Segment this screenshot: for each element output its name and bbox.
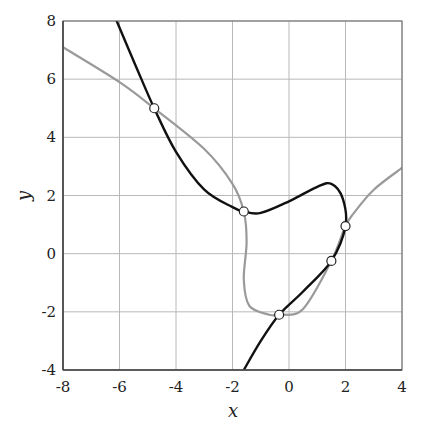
chart: -8-6-4-2024 -4-202468 x y xyxy=(0,0,428,441)
x-tick-label: -6 xyxy=(112,378,127,396)
x-tick-labels: -8-6-4-2024 xyxy=(56,378,407,396)
y-tick-label: 4 xyxy=(46,128,56,146)
x-tick-label: 0 xyxy=(284,378,294,396)
x-tick-label: 2 xyxy=(341,378,351,396)
x-tick-label: -8 xyxy=(56,378,71,396)
intersection-marker xyxy=(150,104,159,113)
y-axis-label: y xyxy=(13,190,34,202)
y-tick-label: 2 xyxy=(46,187,56,205)
y-tick-label: -4 xyxy=(41,361,56,379)
intersection-marker xyxy=(327,256,336,265)
y-tick-label: 0 xyxy=(46,245,56,263)
y-tick-label: 6 xyxy=(46,70,56,88)
x-tick-label: -2 xyxy=(225,378,240,396)
x-tick-label: -4 xyxy=(169,378,184,396)
y-tick-label: -2 xyxy=(41,303,56,321)
y-tick-labels: -4-202468 xyxy=(41,12,56,379)
x-axis-label: x xyxy=(228,400,238,421)
intersection-marker xyxy=(275,310,284,319)
y-tick-label: 8 xyxy=(46,12,56,30)
intersection-marker xyxy=(341,222,350,231)
intersection-marker xyxy=(239,207,248,216)
intersection-markers xyxy=(150,104,350,319)
x-tick-label: 4 xyxy=(397,378,407,396)
grid xyxy=(63,21,402,370)
